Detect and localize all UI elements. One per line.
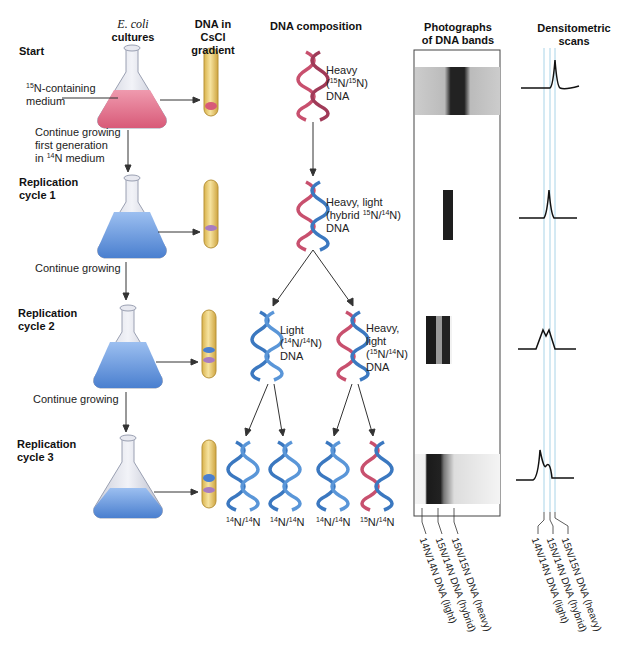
stage-cycle2-line2: cycle 2: [18, 320, 77, 333]
band-photographs: [414, 50, 500, 516]
header-cultures-organism: E. coli: [108, 18, 158, 31]
flask-start: [98, 45, 167, 128]
label-line3: DNA: [366, 361, 408, 374]
header-photographs-line2: of DNA bands: [416, 34, 500, 47]
label-line1b: light: [366, 335, 408, 348]
label-post: N): [396, 348, 408, 360]
label-line3: DNA: [326, 222, 401, 235]
note-grow1-pre: in: [35, 152, 47, 164]
flask-cycle1: [98, 175, 167, 258]
label-post: N: [253, 516, 261, 528]
label-post: N: [387, 516, 395, 528]
label-mid: N/: [370, 209, 381, 221]
helix-gen3-1: [228, 442, 258, 510]
stage-cycle3-line1: Replication: [17, 438, 76, 451]
label-mid: N/: [368, 516, 379, 528]
stage-cycle2-line1: Replication: [18, 307, 77, 320]
isotope-sup: 14: [289, 516, 297, 523]
helix-gen3-3: [318, 442, 348, 510]
gen3-label-1: 14N/14N: [226, 516, 261, 529]
label-line1: Heavy,: [366, 322, 408, 335]
scan-cycle1: [519, 190, 577, 218]
label-mid: N/: [377, 348, 388, 360]
tube-cycle1: [204, 180, 218, 248]
tube-start: [204, 48, 218, 116]
tube-cycle2: [202, 310, 216, 378]
label-line1: Heavy, light: [326, 196, 401, 209]
label-post: N): [389, 209, 401, 221]
note-grow3: Continue growing: [33, 393, 119, 406]
label-pre: (hybrid: [326, 209, 363, 221]
header-photographs: Photographs of DNA bands: [416, 21, 500, 47]
header-scans-line2: scans: [534, 35, 614, 48]
note-medium: 15N-containing medium: [26, 82, 96, 108]
label-mid: N/: [337, 77, 348, 89]
helix-gen3-2: [270, 442, 300, 510]
note-grow2: Continue growing: [35, 262, 121, 275]
stage-cycle1: Replication cycle 1: [19, 176, 78, 202]
flask-cycle3: [94, 435, 163, 518]
label-heavy-dna: Heavy (15N/15N) DNA: [326, 64, 368, 103]
isotope-sup: 14: [316, 516, 324, 523]
header-cultures: E. coli cultures: [108, 18, 158, 44]
header-gradient: DNA in CsCl gradient: [178, 18, 248, 57]
helix-gen3-4: [362, 442, 392, 510]
scan-leaders: [538, 512, 568, 534]
isotope-sup: 14: [226, 516, 234, 523]
flask-cycle2: [94, 305, 163, 388]
label-line3: DNA: [326, 90, 368, 103]
label-light-dna: Light (14N/14N) DNA: [280, 324, 322, 363]
stage-start: Start: [19, 45, 44, 58]
stage-cycle1-line1: Replication: [19, 176, 78, 189]
note-grow1-line2: first generation: [35, 139, 121, 152]
header-gradient-line1: DNA in: [178, 18, 248, 31]
scan-traces: [516, 60, 579, 480]
gen3-label-3: 14N/14N: [316, 516, 351, 529]
gen3-label-4: 15N/14N: [360, 516, 395, 529]
label-mid: N/: [291, 337, 302, 349]
helix-hybrid: [298, 182, 328, 250]
header-gradient-line2: CsCl gradient: [178, 31, 248, 57]
stage-cycle1-line2: cycle 1: [19, 189, 78, 202]
note-medium-line1: N-containing: [34, 82, 96, 94]
label-mid: N/: [278, 516, 289, 528]
note-grow1-line1: Continue growing: [35, 126, 121, 139]
isotope-sup: 14: [245, 516, 253, 523]
isotope-sup: 15: [360, 516, 368, 523]
label-line1: Light: [280, 324, 322, 337]
label-line3: DNA: [280, 350, 322, 363]
stage-cycle3: Replication cycle 3: [17, 438, 76, 464]
label-post: N: [297, 516, 305, 528]
label-post: N): [310, 337, 322, 349]
isotope-sup: 14: [379, 516, 387, 523]
helix-hybrid-2: [338, 312, 368, 380]
helix-heavy: [298, 52, 328, 120]
label-post: N: [343, 516, 351, 528]
stage-cycle2: Replication cycle 2: [18, 307, 77, 333]
label-hybrid2-dna: Heavy, light (15N/14N) DNA: [366, 322, 408, 374]
stage-cycle3-line2: cycle 3: [17, 451, 76, 464]
label-hybrid-dna: Heavy, light (hybrid 15N/14N) DNA: [326, 196, 401, 235]
isotope-sup: 15: [26, 82, 34, 89]
label-post: N): [356, 77, 368, 89]
header-composition: DNA composition: [266, 20, 366, 33]
isotope-sup: 14: [335, 516, 343, 523]
scan-cycle3: [516, 450, 574, 480]
isotope-sup: 14: [270, 516, 278, 523]
note-grow1-post: N medium: [54, 152, 104, 164]
gen3-label-2: 14N/14N: [270, 516, 305, 529]
label-line1: Heavy: [326, 64, 368, 77]
header-scans: Densitometric scans: [534, 22, 614, 48]
header-photographs-line1: Photographs: [416, 21, 500, 34]
helix-light: [252, 312, 282, 380]
header-cultures-label: cultures: [108, 31, 158, 44]
scan-guide-lines: [544, 48, 555, 512]
scan-cycle2: [518, 330, 576, 349]
label-mid: N/: [234, 516, 245, 528]
note-medium-line2: medium: [26, 95, 96, 108]
header-scans-line1: Densitometric: [534, 22, 614, 35]
note-grow1: Continue growing first generation in 14N…: [35, 126, 121, 165]
tube-cycle3: [202, 440, 216, 508]
label-mid: N/: [324, 516, 335, 528]
